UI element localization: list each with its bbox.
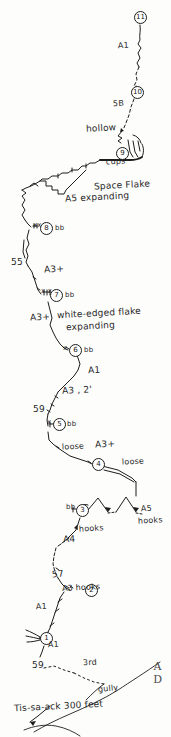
annotation-bb-6: bb: [84, 347, 93, 354]
annotation-a1-lower: A1: [36, 603, 47, 612]
annotation-a1-below-belay1: A1: [48, 641, 59, 650]
annotation-grade-59-lower: 59: [32, 661, 44, 670]
hollow-feature-line: [118, 131, 122, 143]
route-line-8-to-55: [26, 230, 29, 266]
annotation-a3-plus-lower: A3+: [95, 439, 115, 449]
annotation-a4: A4: [63, 535, 76, 545]
gully-line: [34, 662, 160, 732]
annotation-bb-8-left: xx: [33, 222, 42, 229]
belay-label-8: 8: [44, 225, 48, 232]
corner-letter-d: D: [153, 673, 162, 687]
annotation-a3-plus-upper: A3+: [44, 264, 64, 274]
hook-zigzag-left: [88, 498, 108, 512]
belay-circle-5[interactable]: 5: [53, 418, 66, 431]
belay-circle-8[interactable]: 8: [40, 222, 53, 235]
tree-branch-c: [27, 640, 40, 642]
belay-label-11: 11: [136, 14, 145, 21]
annotation-hooks-mid: hooks: [79, 524, 104, 533]
route-line-a3-2ft: [48, 392, 58, 414]
belay-circle-4[interactable]: 4: [92, 458, 105, 471]
hollow-arrow: [120, 128, 124, 132]
route-line-traverse-cups: [40, 160, 100, 181]
annotation-bb-5: bb: [67, 421, 76, 428]
annotation-bb-7: bb: [65, 292, 74, 299]
belay-label-4: 4: [96, 461, 100, 468]
belay-label-10: 10: [133, 89, 142, 96]
annotation-a3-plus-mid: A3+: [30, 312, 50, 322]
annotation-grade-55: 55: [11, 258, 23, 267]
annotation-grade-57: 57: [52, 569, 65, 579]
annotation-loose-left: loose: [62, 442, 84, 451]
route-line-below-1: [40, 646, 44, 657]
annotation-hooks-right: hooks: [138, 516, 163, 525]
belay-circle-3[interactable]: 3: [76, 504, 89, 517]
route-line-to-8-upper: [22, 190, 26, 220]
belay-label-6: 6: [73, 347, 77, 354]
hook-dash-a: [108, 512, 116, 513]
belay9-right-edge: [142, 144, 144, 157]
annotation-3rd-class: 3rd: [83, 659, 97, 668]
space-flake-line: [40, 170, 86, 194]
topo-line-art: [0, 0, 171, 737]
route-line-pitch-10: [123, 99, 134, 130]
annotation-bb-7-left: x x: [41, 288, 52, 295]
climbing-topo-drawing: 11 10 9 8 7 6 5 4 3 2 1 A1 5B hollow cup…: [0, 0, 171, 737]
flake-right-line-a: [133, 135, 141, 143]
annotation-a5: A5: [141, 505, 152, 514]
belay-circle-11[interactable]: 11: [134, 11, 147, 24]
route-line-pitch-11-lower: [134, 67, 139, 86]
corner-letters: A D: [153, 660, 162, 688]
flake-right-line-d: [138, 141, 140, 151]
annotation-bb-3-left: bb: [66, 504, 75, 511]
annotation-cups: cups: [106, 157, 126, 166]
annotation-a1-top: A1: [118, 42, 129, 51]
route-line-pitch-11: [137, 25, 141, 67]
belay-label-5: 5: [57, 421, 61, 428]
approach-line-59: [44, 666, 74, 673]
belay-circle-10[interactable]: 10: [131, 86, 144, 99]
route-line-belay8-approach: [25, 220, 31, 227]
annotation-bb-8: bb: [55, 225, 64, 232]
approach-line-3rd: [74, 673, 104, 684]
belay-circle-6[interactable]: 6: [69, 344, 82, 357]
crack-detail-55: [23, 240, 25, 258]
annotation-grade-5-8: 5B: [113, 100, 124, 109]
bottom-terrain-line: [24, 725, 80, 736]
annotation-bb-6-left: x: [63, 345, 67, 352]
annotation-a3-2ft: A3 , 2': [62, 385, 93, 396]
annotation-grade-59-upper: 59: [33, 405, 45, 414]
belay-label-3: 3: [80, 507, 84, 514]
annotation-bb-5-left: x: [47, 419, 51, 426]
flake-right-line-c: [133, 141, 138, 157]
corner-letter-a: A: [153, 660, 162, 674]
annotation-loose-right: loose: [122, 457, 144, 466]
hook-zigzag-right: [116, 497, 136, 512]
annotation-hollow: hollow: [86, 123, 117, 134]
tree-branch-b: [26, 636, 40, 639]
annotation-a1-mid: A1: [88, 366, 101, 376]
belay-label-7: 7: [54, 292, 58, 299]
